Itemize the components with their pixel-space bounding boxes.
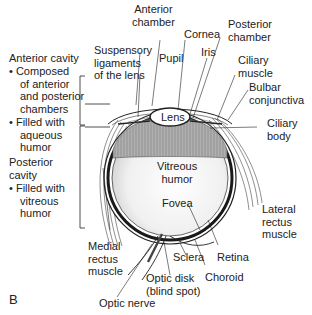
note-line: Filled with (16, 116, 65, 128)
label-line: muscle (262, 228, 297, 241)
label-pupil: Pupil (159, 52, 183, 65)
label-line: rectus (262, 216, 297, 229)
label-line: Ciliary (238, 54, 273, 67)
label-posterior-chamber: Posterior chamber (228, 18, 272, 43)
label-line: body (267, 130, 298, 143)
label-line: rectus (88, 253, 123, 266)
label-line: chamber (228, 31, 272, 44)
label-suspensory-ligaments: Suspensory ligaments of the lens (94, 44, 152, 82)
label-line: ligaments (94, 57, 152, 70)
label-line: Medial (88, 240, 123, 253)
label-line: muscle (238, 67, 273, 80)
label-line: Anterior (132, 3, 175, 16)
label-line: humor (157, 173, 197, 186)
label-optic-nerve: Optic nerve (99, 297, 155, 310)
posterior-cavity-title: Posterior (9, 156, 53, 169)
label-line: Suspensory (94, 44, 152, 57)
label-line: Posterior (228, 18, 272, 31)
note-line: humor (20, 207, 51, 220)
label-sclera: Sclera (173, 251, 204, 264)
note-line: humor (20, 141, 51, 154)
note-line: and posterior (20, 90, 84, 103)
posterior-cavity-title: cavity (9, 169, 37, 182)
label-retina: Retina (217, 251, 249, 264)
label-line: (blind spot) (146, 285, 200, 298)
posterior-cavity-bullet-1: • Filled with (9, 182, 65, 195)
label-ciliary-body: Ciliary body (267, 117, 298, 142)
label-line: chamber (132, 16, 175, 29)
note-line: aqueous (20, 129, 62, 142)
label-ciliary-muscle: Ciliary muscle (238, 54, 273, 79)
label-bulbar-conjunctiva: Bulbar conjunctiva (249, 81, 304, 106)
bullet-glyph: • (9, 116, 13, 128)
note-line: of anterior (20, 78, 70, 91)
note-line: vitreous (20, 195, 59, 208)
anterior-cavity-title: Anterior cavity (9, 52, 79, 65)
bullet-glyph: • (9, 65, 13, 77)
note-line: Composed (16, 65, 69, 77)
panel-letter: B (9, 292, 18, 307)
label-line: Vitreous (157, 160, 197, 173)
label-line: Ciliary (267, 117, 298, 130)
note-line: chambers (20, 103, 68, 116)
label-line: conjunctiva (249, 94, 304, 107)
label-iris: Iris (201, 46, 216, 59)
label-line: muscle (88, 265, 123, 278)
label-fovea: Fovea (162, 197, 193, 210)
bullet-glyph: • (9, 182, 13, 194)
label-line: Bulbar (249, 81, 304, 94)
label-line: Lateral (262, 203, 297, 216)
label-optic-disk: Optic disk (blind spot) (146, 272, 200, 297)
label-choroid: Choroid (205, 271, 244, 284)
label-vitreous-humor: Vitreous humor (157, 160, 197, 185)
label-medial-rectus-muscle: Medial rectus muscle (88, 240, 123, 278)
anterior-cavity-bullet-1: • Composed (9, 65, 69, 78)
note-line: Filled with (16, 182, 65, 194)
label-lens: Lens (161, 111, 185, 124)
label-line: Optic disk (146, 272, 200, 285)
label-cornea: Cornea (184, 28, 220, 41)
label-anterior-chamber: Anterior chamber (132, 3, 175, 28)
anterior-cavity-bullet-2: • Filled with (9, 116, 65, 129)
label-line: of the lens (94, 69, 152, 82)
label-lateral-rectus-muscle: Lateral rectus muscle (262, 203, 297, 241)
